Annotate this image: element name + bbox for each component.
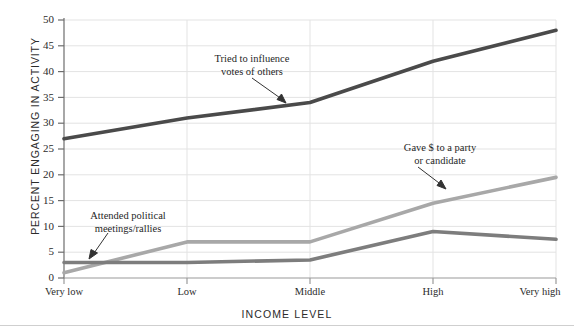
arrowhead-attended [89,250,98,260]
x-axis-title: INCOME LEVEL [0,308,574,320]
arrowhead-influence [277,94,286,103]
annotation-attended: Attended political meetings/rallies [58,209,198,235]
y-tick-label-35: 35 [28,91,54,103]
annotation-attended-line1: Attended political [58,209,198,222]
chart-figure: PERCENT ENGAGING IN ACTIVITY 50 45 40 35… [0,0,574,330]
x-tick-marks [64,278,556,284]
annotation-influence: Tried to influence votes of others [180,52,324,78]
y-tick-label-0: 0 [28,271,54,283]
bottom-divider [0,325,574,326]
y-axis-title: PERCENT ENGAGING IN ACTIVITY [29,26,41,246]
annotation-gave-money: Gave $ to a party or candidate [368,141,512,167]
x-tick-label-very-low: Very low [45,286,83,297]
y-tick-label-20: 20 [28,168,54,180]
y-tick-label-45: 45 [28,39,54,51]
y-tick-label-40: 40 [28,65,54,77]
x-tick-label-very-high: Very high [519,286,560,297]
y-tick-label-10: 10 [28,220,54,232]
annotation-gave-money-line2: or candidate [368,154,512,167]
annotation-gave-money-line1: Gave $ to a party [368,141,512,154]
leader-line-influence [252,78,283,100]
y-tick-label-50: 50 [28,13,54,25]
annotation-influence-line2: votes of others [180,65,324,78]
y-tick-label-25: 25 [28,142,54,154]
y-tick-marks [58,20,64,278]
annotation-influence-line1: Tried to influence [180,52,324,65]
y-tick-label-5: 5 [28,245,54,257]
x-tick-label-middle: Middle [295,286,325,297]
annotation-attended-line2: meetings/rallies [58,222,198,235]
arrowhead-gave-money [437,180,446,189]
y-tick-label-30: 30 [28,116,54,128]
y-tick-label-15: 15 [28,194,54,206]
x-tick-label-high: High [423,286,444,297]
x-tick-label-low: Low [177,286,196,297]
